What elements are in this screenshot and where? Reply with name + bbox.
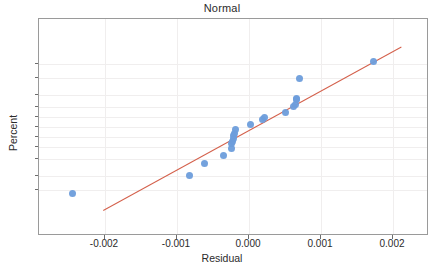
data-point (201, 160, 208, 167)
normal-probability-plot: Normal 510203040506070809095 -0.002-0.00… (0, 0, 444, 269)
y-tick-mark (35, 94, 38, 95)
y-tick-mark (35, 63, 38, 64)
y-tick-mark (35, 175, 38, 176)
x-tick-label: 0.002 (362, 238, 422, 249)
y-tick-mark (35, 106, 38, 107)
data-point (247, 121, 254, 128)
plot-panel (38, 18, 428, 235)
page-title: Normal (0, 2, 444, 14)
y-tick-mark (35, 116, 38, 117)
x-tick-mark (320, 235, 321, 239)
gridline-horizontal (39, 95, 427, 96)
data-point (186, 172, 193, 179)
data-point (296, 75, 303, 82)
data-point (69, 190, 76, 197)
gridline-horizontal (39, 78, 427, 79)
gridline-horizontal (39, 176, 427, 177)
x-tick-mark (176, 235, 177, 239)
gridline-horizontal (39, 107, 427, 108)
data-point (261, 114, 268, 121)
x-tick-label: 0.001 (290, 238, 350, 249)
y-tick-mark (35, 189, 38, 190)
y-tick-mark (35, 126, 38, 127)
reference-fit-line (103, 47, 402, 212)
data-point (220, 152, 227, 159)
gridline-horizontal (39, 117, 427, 118)
y-tick-mark (35, 136, 38, 137)
data-point (232, 126, 239, 133)
x-tick-label: 0.000 (218, 238, 278, 249)
x-tick-label: -0.001 (146, 238, 206, 249)
x-tick-mark (392, 235, 393, 239)
gridline-horizontal (39, 190, 427, 191)
y-axis-title: Percent (7, 93, 19, 173)
y-tick-mark (35, 158, 38, 159)
x-tick-mark (248, 235, 249, 239)
y-tick-mark (35, 77, 38, 78)
gridline-horizontal (39, 159, 427, 160)
y-tick-mark (35, 146, 38, 147)
x-axis-title: Residual (0, 252, 444, 264)
x-tick-label: -0.002 (74, 238, 134, 249)
x-tick-mark (104, 235, 105, 239)
data-point (282, 109, 289, 116)
